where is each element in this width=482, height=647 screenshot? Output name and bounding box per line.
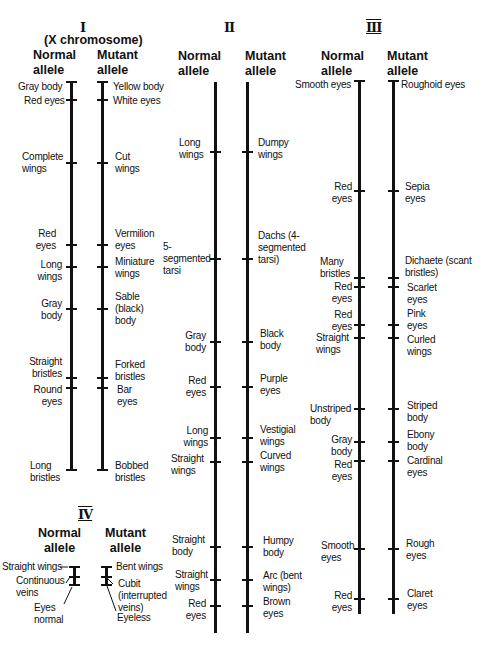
locus-label-mutant: Dachs (4-segmented tarsi) [258, 230, 310, 266]
locus-label-normal: Red eyes [178, 598, 206, 622]
locus-label-normal: Straight wings [316, 332, 356, 356]
locus-label-mutant: Purple eyes [260, 373, 294, 397]
locus-tick [242, 258, 253, 260]
locus-tick [354, 286, 365, 288]
locus-tick [388, 286, 399, 288]
locus-label-mutant: Dumpy wings [258, 137, 292, 161]
locus-label-mutant: Pink eyes [407, 308, 437, 332]
chromosome-iii-numeral: III [366, 20, 381, 35]
locus-tick [210, 461, 221, 463]
locus-tick [242, 386, 253, 388]
locus-tick [242, 546, 253, 548]
chromosome-iii-mutant-top-cap [388, 80, 399, 82]
locus-tick [210, 341, 221, 343]
locus-tick [354, 408, 365, 410]
header-line-2: allele [321, 64, 364, 79]
header-line-1: Mutant [387, 49, 428, 64]
locus-tick [210, 386, 221, 388]
locus-label-normal: Long wings [179, 137, 209, 161]
locus-tick [354, 460, 365, 462]
locus-tick [210, 605, 221, 607]
locus-tick [388, 190, 399, 192]
chromosome-ii-numeral: II [224, 20, 234, 35]
locus-label-normal: Gray body [178, 330, 206, 354]
locus-label-normal: 5-segmented tarsi [163, 241, 207, 277]
locus-label-normal: Unstriped body [310, 403, 354, 427]
locus-tick [242, 151, 253, 153]
locus-tick [388, 460, 399, 462]
locus-tick [354, 598, 365, 600]
locus-tick [354, 190, 365, 192]
locus-label-normal: Straight body [172, 534, 212, 558]
locus-tick [242, 437, 253, 439]
locus-label-normal: Red eyes [322, 590, 352, 614]
locus-label-normal: Red eyes [322, 459, 352, 483]
chromosome-ii-normal-header: Normal allele [178, 49, 221, 79]
locus-tick [388, 277, 399, 279]
locus-tick [242, 605, 253, 607]
locus-label-normal: Smooth eyes [321, 540, 355, 564]
locus-label-mutant: Sepia eyes [405, 181, 435, 205]
locus-tick [210, 258, 221, 260]
locus-tick [354, 548, 365, 550]
locus-label-mutant: Brown eyes [263, 596, 293, 620]
locus-label-normal: Red eyes [322, 281, 352, 305]
locus-tick [354, 441, 365, 443]
locus-tick [388, 337, 399, 339]
locus-label-mutant: Bent wings [116, 561, 163, 573]
locus-label-mutant: Scarlet eyes [407, 282, 441, 306]
locus-label-normal: Gray body [322, 434, 352, 458]
chromosome-ii-normal-line [214, 82, 217, 633]
locus-tick [388, 408, 399, 410]
locus-label-mutant: Ebony body [407, 429, 441, 453]
locus-label-normal: Eyes normal [34, 602, 68, 626]
header-line-2: allele [178, 64, 221, 79]
locus-label-mutant: Eyeless [117, 612, 151, 624]
locus-label-mutant: Roughoid eyes [401, 79, 465, 91]
chromosome-iii-mutant-header: Mutant allele [387, 49, 428, 79]
chromosome-ii-mutant-line [246, 82, 249, 633]
locus-tick [242, 579, 253, 581]
chromosome-iii-mutant-line [392, 80, 395, 614]
locus-label-normal: Many bristles [320, 256, 356, 280]
locus-label-normal: Red eyes [322, 309, 352, 333]
locus-label-normal: Red eyes [322, 181, 352, 205]
header-line-2: allele [245, 64, 286, 79]
locus-tick [210, 151, 221, 153]
chromosome-iii-normal-header: Normal allele [321, 49, 364, 79]
header-line-1: Mutant [245, 49, 286, 64]
header-line-2: allele [387, 64, 428, 79]
locus-label-normal: Straight wings [2, 561, 62, 573]
locus-tick [210, 437, 221, 439]
chromosome-iii-normal-line [358, 80, 361, 614]
locus-tick [388, 441, 399, 443]
locus-label-normal: Straight wings [175, 569, 215, 593]
locus-tick [388, 598, 399, 600]
locus-label-mutant: Cubit (interrupted veins) [118, 578, 170, 614]
locus-label-normal: Red eyes [178, 375, 206, 399]
locus-label-normal: Straight wings [171, 453, 211, 477]
chromosome-iii-normal-top-cap [354, 80, 365, 82]
locus-label-mutant: Curved wings [260, 450, 294, 474]
locus-tick [242, 461, 253, 463]
locus-label-mutant: Dichaete (scant bristles) [405, 255, 475, 279]
locus-label-normal: Smooth eyes [295, 79, 351, 91]
locus-label-mutant: Curled wings [407, 334, 441, 358]
locus-label-normal: Long wings [178, 425, 208, 449]
locus-label-mutant: Striped body [407, 400, 441, 424]
chromosome-ii-mutant-header: Mutant allele [245, 49, 286, 79]
header-line-1: Normal [178, 49, 221, 64]
locus-label-normal: Continuous veins [16, 575, 66, 599]
locus-label-mutant: Vestigial wings [260, 424, 300, 448]
locus-tick [388, 324, 399, 326]
locus-label-mutant: Black body [260, 328, 290, 352]
locus-tick [388, 548, 399, 550]
locus-label-mutant: Humpy body [263, 535, 293, 559]
locus-label-mutant: Arc (bent wings) [263, 570, 313, 594]
locus-tick [242, 341, 253, 343]
locus-label-mutant: Rough eyes [406, 538, 436, 562]
locus-label-mutant: Claret eyes [407, 588, 437, 612]
header-line-1: Normal [321, 49, 364, 64]
locus-label-mutant: Cardinal eyes [407, 455, 447, 479]
locus-tick [354, 324, 365, 326]
